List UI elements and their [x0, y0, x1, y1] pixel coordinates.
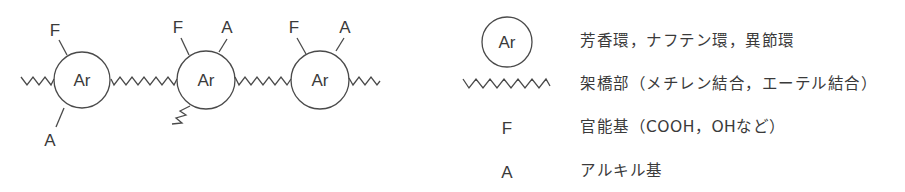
ring3-functional-group-label: F: [289, 18, 299, 37]
ring1-a-bond: [56, 108, 64, 127]
bridge-zigzag-ring2-branch: [172, 106, 190, 124]
legend-functional-description: 官能基（COOH，OHなど）: [580, 120, 786, 136]
ring-3-label: Ar: [312, 71, 329, 90]
ring3-alkyl-group-label: A: [339, 18, 351, 37]
ring2-functional-group-label: F: [173, 18, 183, 37]
ring-2-label: Ar: [198, 71, 215, 90]
bridge-zigzag-1-2: [111, 77, 177, 85]
ring-1-label: Ar: [74, 71, 91, 90]
legend-ring-description: 芳香環，ナフテン環，異節環: [580, 34, 795, 50]
legend-functional-symbol: F: [502, 119, 512, 138]
bridge-zigzag-2-3: [235, 77, 291, 85]
ring2-a-bond: [219, 39, 227, 52]
legend-alkyl-symbol: A: [501, 163, 513, 182]
ring1-alkyl-group-label: A: [44, 131, 56, 150]
ring2-f-bond: [181, 38, 189, 55]
ring3-a-bond: [336, 38, 344, 51]
legend-alkyl-description: アルキル基: [580, 164, 663, 180]
structure-diagram: Ar Ar Ar F A F A F A Ar F A: [0, 0, 905, 192]
ring1-functional-group-label: F: [50, 21, 60, 40]
ring1-f-bond: [59, 40, 67, 55]
legend-ring-symbol-label: Ar: [499, 33, 516, 52]
ring2-alkyl-group-label: A: [221, 18, 233, 37]
legend-bridge-zigzag: [463, 79, 550, 88]
bridge-zigzag-left: [21, 77, 54, 85]
ring3-f-bond: [297, 38, 306, 54]
legend-bridge-description: 架橋部（メチレン結合，エーテル結合）: [580, 77, 877, 93]
bridge-zigzag-right: [349, 77, 380, 85]
